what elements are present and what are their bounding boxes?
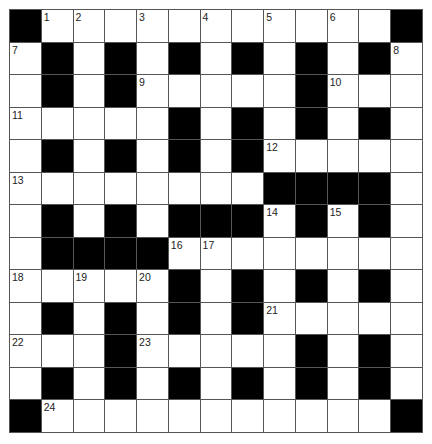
answer-cell[interactable] (169, 335, 200, 367)
answer-cell[interactable] (359, 303, 390, 335)
answer-cell[interactable] (328, 303, 359, 335)
answer-cell[interactable] (328, 108, 359, 140)
answer-cell[interactable] (264, 238, 295, 270)
answer-cell[interactable] (328, 270, 359, 302)
answer-cell[interactable]: 19 (74, 270, 105, 302)
answer-cell[interactable] (74, 205, 105, 237)
answer-cell[interactable] (232, 335, 263, 367)
answer-cell[interactable] (10, 75, 41, 107)
answer-cell[interactable] (10, 238, 41, 270)
answer-cell[interactable]: 10 (328, 75, 359, 107)
answer-cell[interactable]: 7 (10, 43, 41, 75)
answer-cell[interactable] (105, 400, 136, 432)
answer-cell[interactable] (105, 108, 136, 140)
answer-cell[interactable]: 9 (137, 75, 168, 107)
answer-cell[interactable]: 14 (264, 205, 295, 237)
answer-cell[interactable] (201, 335, 232, 367)
answer-cell[interactable]: 13 (10, 173, 41, 205)
answer-cell[interactable] (296, 400, 327, 432)
answer-cell[interactable] (391, 140, 422, 172)
answer-cell[interactable] (232, 238, 263, 270)
answer-cell[interactable]: 1 (42, 10, 73, 42)
answer-cell[interactable] (391, 368, 422, 400)
answer-cell[interactable] (391, 335, 422, 367)
answer-cell[interactable]: 4 (201, 10, 232, 42)
answer-cell[interactable] (264, 400, 295, 432)
answer-cell[interactable] (137, 43, 168, 75)
answer-cell[interactable] (137, 140, 168, 172)
answer-cell[interactable] (391, 75, 422, 107)
answer-cell[interactable] (201, 140, 232, 172)
answer-cell[interactable] (359, 10, 390, 42)
answer-cell[interactable]: 15 (328, 205, 359, 237)
answer-cell[interactable] (201, 303, 232, 335)
answer-cell[interactable] (359, 75, 390, 107)
answer-cell[interactable] (201, 173, 232, 205)
answer-cell[interactable] (74, 108, 105, 140)
answer-cell[interactable] (296, 10, 327, 42)
answer-cell[interactable] (10, 303, 41, 335)
answer-cell[interactable] (391, 238, 422, 270)
answer-cell[interactable] (137, 368, 168, 400)
answer-cell[interactable] (264, 108, 295, 140)
answer-cell[interactable]: 6 (328, 10, 359, 42)
answer-cell[interactable] (42, 108, 73, 140)
answer-cell[interactable] (232, 10, 263, 42)
answer-cell[interactable]: 17 (201, 238, 232, 270)
answer-cell[interactable] (10, 368, 41, 400)
answer-cell[interactable] (359, 400, 390, 432)
answer-cell[interactable] (232, 75, 263, 107)
answer-cell[interactable] (137, 108, 168, 140)
answer-cell[interactable] (328, 335, 359, 367)
answer-cell[interactable] (105, 270, 136, 302)
answer-cell[interactable] (264, 368, 295, 400)
answer-cell[interactable] (74, 400, 105, 432)
answer-cell[interactable] (264, 75, 295, 107)
answer-cell[interactable] (232, 173, 263, 205)
answer-cell[interactable] (74, 140, 105, 172)
answer-cell[interactable] (328, 238, 359, 270)
answer-cell[interactable] (74, 335, 105, 367)
answer-cell[interactable] (391, 270, 422, 302)
answer-cell[interactable]: 20 (137, 270, 168, 302)
answer-cell[interactable] (328, 368, 359, 400)
answer-cell[interactable] (74, 75, 105, 107)
answer-cell[interactable] (169, 10, 200, 42)
answer-cell[interactable] (105, 10, 136, 42)
answer-cell[interactable] (137, 173, 168, 205)
answer-cell[interactable] (74, 368, 105, 400)
answer-cell[interactable] (169, 173, 200, 205)
answer-cell[interactable] (328, 43, 359, 75)
answer-cell[interactable] (359, 140, 390, 172)
answer-cell[interactable] (296, 303, 327, 335)
answer-cell[interactable] (42, 270, 73, 302)
answer-cell[interactable]: 24 (42, 400, 73, 432)
answer-cell[interactable] (359, 238, 390, 270)
answer-cell[interactable] (42, 335, 73, 367)
answer-cell[interactable] (74, 303, 105, 335)
answer-cell[interactable] (328, 400, 359, 432)
answer-cell[interactable]: 21 (264, 303, 295, 335)
answer-cell[interactable] (137, 303, 168, 335)
answer-cell[interactable] (391, 303, 422, 335)
answer-cell[interactable] (264, 335, 295, 367)
answer-cell[interactable] (201, 368, 232, 400)
answer-cell[interactable] (74, 43, 105, 75)
answer-cell[interactable]: 8 (391, 43, 422, 75)
answer-cell[interactable] (296, 140, 327, 172)
answer-cell[interactable] (169, 75, 200, 107)
answer-cell[interactable] (391, 205, 422, 237)
answer-cell[interactable]: 22 (10, 335, 41, 367)
answer-cell[interactable] (201, 75, 232, 107)
answer-cell[interactable] (201, 400, 232, 432)
answer-cell[interactable] (137, 205, 168, 237)
answer-cell[interactable] (10, 205, 41, 237)
answer-cell[interactable]: 2 (74, 10, 105, 42)
answer-cell[interactable]: 12 (264, 140, 295, 172)
answer-cell[interactable]: 11 (10, 108, 41, 140)
answer-cell[interactable] (296, 238, 327, 270)
answer-cell[interactable] (201, 43, 232, 75)
answer-cell[interactable]: 5 (264, 10, 295, 42)
answer-cell[interactable] (328, 140, 359, 172)
answer-cell[interactable] (10, 140, 41, 172)
